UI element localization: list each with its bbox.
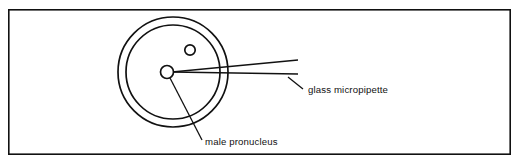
female-pronucleus-circle <box>185 45 195 55</box>
glass-micropipette-label: glass micropipette <box>308 84 388 95</box>
male-pronucleus-label: male pronucleus <box>205 136 278 147</box>
embryo-microinjection-diagram: glass micropipette male pronucleus <box>0 0 519 163</box>
figure-container: glass micropipette male pronucleus <box>0 0 519 163</box>
male-pronucleus-circle <box>161 66 174 79</box>
figure-border <box>9 10 510 154</box>
